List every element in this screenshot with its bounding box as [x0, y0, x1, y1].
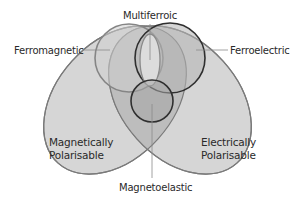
ferroelectric-label: Ferroelectric — [230, 45, 290, 56]
magnetically-polarisable-line1: Magnetically — [49, 136, 113, 149]
magnetoelastic-label: Magnetoelastic — [119, 182, 192, 193]
venn-diagram — [0, 0, 295, 208]
electrically-polarisable-line1: Electrically — [201, 136, 256, 149]
electrically-polarisable-label: Electrically Polarisable — [201, 136, 256, 162]
magnetically-polarisable-label: Magnetically Polarisable — [49, 136, 113, 162]
electrically-polarisable-line2: Polarisable — [201, 149, 256, 162]
multiferroic-label: Multiferroic — [123, 10, 177, 21]
ferromagnetic-label: Ferromagnetic — [14, 45, 84, 56]
magnetically-polarisable-line2: Polarisable — [49, 149, 113, 162]
